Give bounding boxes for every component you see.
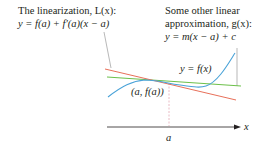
linearization-diagram: The linearization, L(x): y = f(a) + f′(a… bbox=[0, 0, 260, 147]
linearization-equation: y = f(a) + f′(a)(x − a) bbox=[18, 18, 109, 30]
other-approx-title-line1: Some other linear bbox=[165, 5, 240, 17]
linearization-title: The linearization, L(x): bbox=[18, 5, 116, 17]
curve-label: y = f(x) bbox=[180, 63, 212, 75]
x-axis-label: x bbox=[244, 121, 249, 133]
point-label: (a, f(a)) bbox=[131, 86, 164, 98]
leader-line-linearization bbox=[104, 32, 111, 68]
curve-f bbox=[108, 53, 235, 97]
other-approx-equation: y = m(x − a) + c bbox=[165, 31, 236, 43]
x-axis-arrow-icon bbox=[234, 125, 241, 130]
other-approx-title-line2: approximation, g(x): bbox=[165, 18, 252, 30]
tick-label-a: a bbox=[166, 132, 171, 144]
